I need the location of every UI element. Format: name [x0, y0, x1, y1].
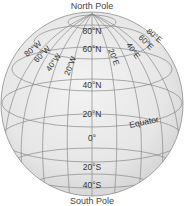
- latitude-label-0: 0°: [88, 133, 96, 143]
- north-pole-label: North Pole: [71, 1, 114, 11]
- latitude-label-60n: 60°N: [83, 44, 102, 54]
- latitude-label-20n: 20°N: [83, 109, 102, 119]
- latitude-label-40s: 40°S: [83, 180, 102, 190]
- latitude-label-80n: 80°N: [83, 26, 102, 36]
- latitude-label-20s: 20°S: [83, 162, 102, 172]
- south-pole-label: South Pole: [70, 196, 114, 206]
- globe-diagram: North Pole South Pole 80°N 60°N 40°N 20°…: [0, 0, 185, 206]
- latitude-label-40n: 40°N: [83, 80, 102, 90]
